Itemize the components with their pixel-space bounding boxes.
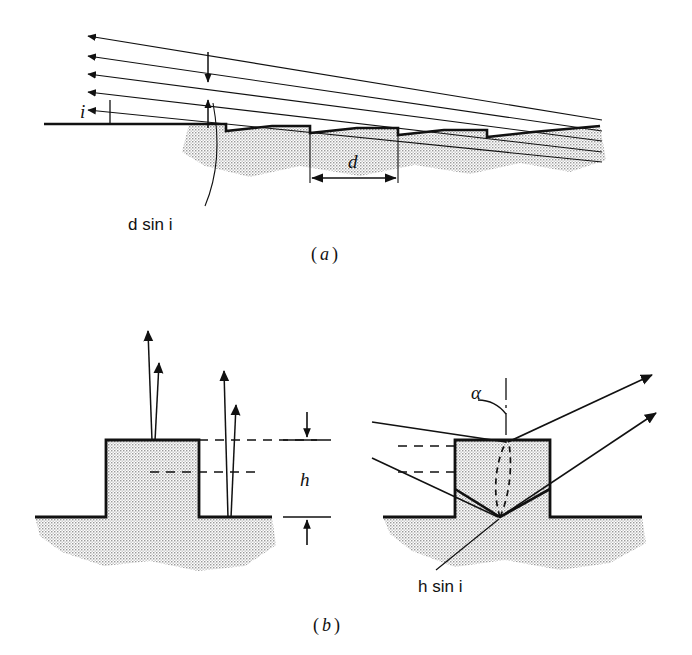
left-ray-pair-2 <box>224 371 236 518</box>
panel-a-caption: ( a ) <box>311 244 338 265</box>
step-height-label: h <box>300 469 310 490</box>
panel-b-caption: ( b ) <box>313 615 340 636</box>
step-height-dimension: h <box>283 412 331 545</box>
incident-ray-upper <box>372 422 506 442</box>
right-substrate-fill <box>383 440 646 570</box>
blaze-angle-label: α <box>471 382 482 403</box>
reflected-ray-groove <box>231 405 236 518</box>
caption-a-letter: a <box>320 244 329 264</box>
incident-ray-groove <box>224 371 228 518</box>
left-ray-pair-1 <box>148 331 159 441</box>
h-sin-i-label: h sin i <box>418 577 462 596</box>
caption-b-letter: b <box>322 615 331 635</box>
figure-root: i d sin i d ( a ) <box>0 0 692 655</box>
left-substrate-fill <box>35 440 276 571</box>
incident-ray-2 <box>88 56 602 131</box>
diffracted-ray-upper <box>508 375 652 442</box>
blaze-angle-arc <box>478 400 506 414</box>
reflected-ray-top-step <box>155 363 159 441</box>
panel-a: i d sin i d ( a ) <box>44 36 606 265</box>
panel-b-right: α h sin i <box>372 375 656 596</box>
caption-a-open: ( <box>311 244 317 265</box>
path-difference-label: d sin i <box>128 215 172 234</box>
incidence-angle-label: i <box>80 101 85 122</box>
groove-spacing-label: d <box>348 151 358 172</box>
incident-ray-top-step <box>148 331 152 441</box>
caption-b-close: ) <box>334 615 340 636</box>
caption-b-open: ( <box>313 615 319 636</box>
optics-grating-figure: i d sin i d ( a ) <box>0 0 692 655</box>
panel-b-left: h <box>35 331 331 571</box>
caption-a-close: ) <box>332 244 338 265</box>
